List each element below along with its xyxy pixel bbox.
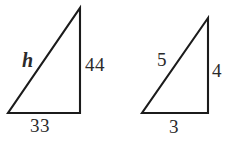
small-triangle-outline [142,18,208,113]
large-triangle-hypotenuse-label: h [22,50,33,70]
large-triangle-horizontal-leg-label: 33 [30,116,50,135]
small-triangle-horizontal-leg-label: 3 [169,117,179,136]
large-triangle-vertical-leg-label: 44 [85,55,105,74]
similar-triangles-figure: h 44 33 5 4 3 [0,0,229,146]
small-triangle-hypotenuse-label: 5 [157,50,167,69]
large-triangle-outline [8,8,80,113]
small-triangle-vertical-leg-label: 4 [212,61,222,80]
